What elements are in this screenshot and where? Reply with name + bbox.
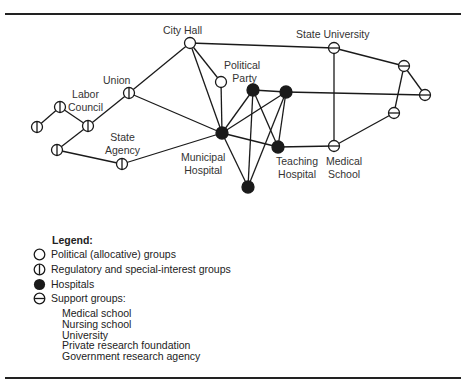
node-state-agency — [117, 159, 128, 170]
node-reg-low — [52, 145, 63, 156]
label-state-agency: State Agency — [105, 131, 140, 157]
bottom-rule — [5, 377, 461, 379]
edge — [129, 93, 222, 133]
node-hosp-a — [247, 84, 259, 96]
node-hosp-bottom — [242, 181, 254, 193]
legend-label: Regulatory and special-interest groups — [51, 263, 231, 275]
node-reg-left — [32, 122, 43, 133]
label-political-line1: Political — [224, 59, 260, 72]
label-teaching-line1: Teaching — [276, 155, 318, 168]
legend-item-hospitals: Hospitals — [33, 277, 94, 291]
label-municipal-hospital: Municipal Hospital — [181, 151, 225, 177]
node-state-university — [329, 43, 340, 54]
edge — [222, 90, 253, 133]
support-subitem: Government research agency — [62, 351, 200, 362]
label-union: Union — [103, 74, 130, 87]
legend-title: Legend: — [52, 234, 93, 246]
horizontal-bar-circle-icon — [33, 292, 46, 305]
edge — [222, 92, 286, 133]
legend-item-political: Political (allocative) groups — [33, 247, 176, 261]
edge — [222, 133, 248, 187]
network-diagram — [0, 0, 468, 230]
label-state-university: State University — [296, 28, 370, 41]
edge — [190, 43, 334, 48]
edge — [286, 92, 425, 95]
label-labor-council: Labor Council — [68, 88, 103, 114]
edge — [190, 43, 222, 133]
edge — [334, 113, 394, 146]
label-municipal-line2: Hospital — [181, 164, 225, 177]
label-teaching-hospital: Teaching Hospital — [276, 155, 318, 181]
edge — [278, 146, 334, 147]
node-sup-upper-right — [399, 61, 410, 72]
node-sup-lower-right — [389, 108, 400, 119]
edge — [253, 90, 278, 147]
label-teaching-line2: Hospital — [276, 168, 318, 181]
node-labor-council — [55, 102, 66, 113]
label-political-party: Political Party — [224, 59, 260, 85]
label-labor-line2: Council — [68, 101, 103, 114]
filled-circle-icon — [33, 278, 46, 291]
node-sup-far-right — [420, 90, 431, 101]
label-municipal-line1: Municipal — [181, 151, 225, 164]
edge — [334, 48, 404, 66]
node-union — [124, 88, 135, 99]
legend-label: Political (allocative) groups — [51, 248, 176, 260]
label-labor-line1: Labor — [68, 88, 103, 101]
node-teaching-hospital — [272, 141, 284, 153]
open-circle-icon — [33, 248, 46, 261]
label-medical-line2: School — [326, 168, 362, 181]
node-medical-school — [329, 141, 340, 152]
vertical-bar-circle-icon — [33, 263, 46, 276]
node-municipal-hospital — [216, 127, 228, 139]
legend-item-support: Support groups: — [33, 291, 126, 305]
label-state-agency-line1: State — [105, 131, 140, 144]
label-state-agency-line2: Agency — [105, 144, 140, 157]
legend-label: Support groups: — [51, 292, 126, 304]
legend-label: Hospitals — [51, 278, 94, 290]
edge — [129, 43, 190, 93]
node-hosp-b — [280, 86, 292, 98]
label-medical-line1: Medical — [326, 155, 362, 168]
edge — [248, 90, 253, 187]
node-city-hall — [185, 38, 196, 49]
label-medical-school: Medical School — [326, 155, 362, 181]
label-city-hall: City Hall — [163, 24, 202, 37]
edge — [221, 82, 222, 133]
label-political-line2: Party — [229, 72, 260, 85]
edge — [394, 66, 404, 113]
node-reg-mid — [83, 121, 94, 132]
legend-item-regulatory: Regulatory and special-interest groups — [33, 262, 231, 276]
edge — [190, 43, 221, 82]
